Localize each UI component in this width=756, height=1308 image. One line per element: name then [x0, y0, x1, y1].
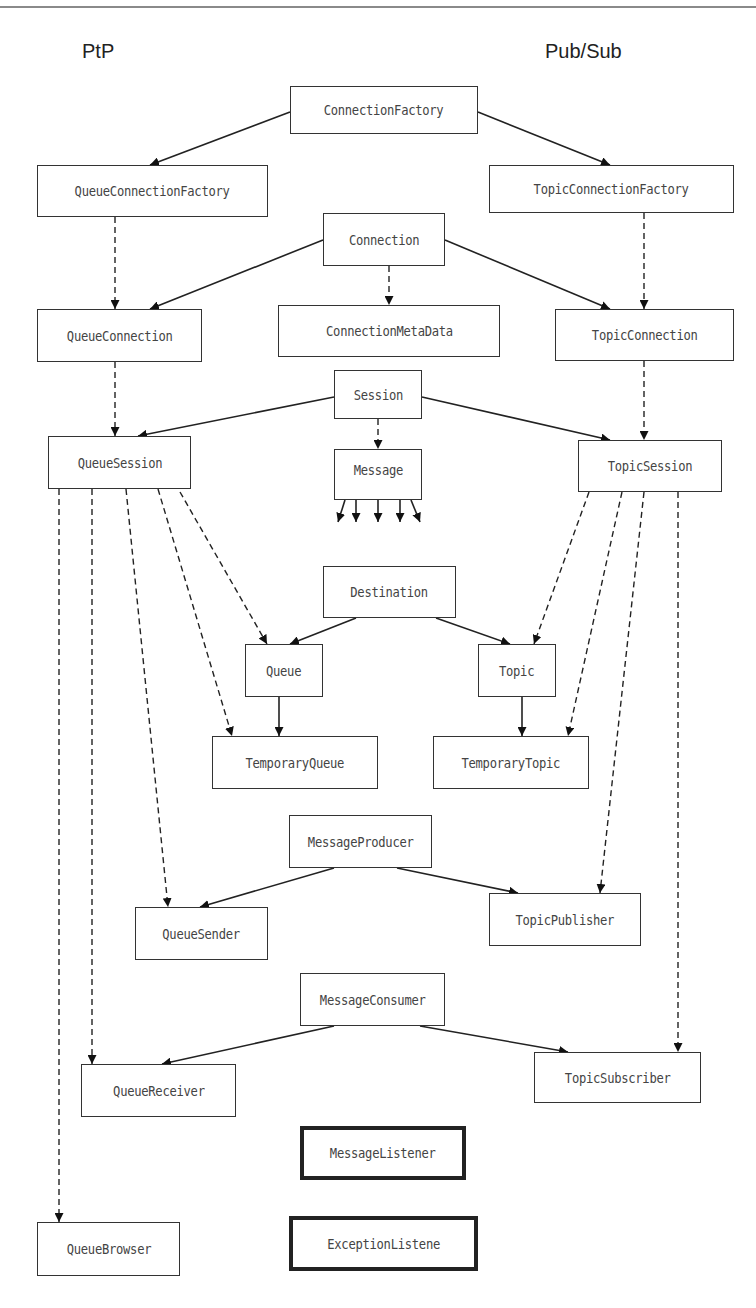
node-message-producer: MessageProducer	[289, 815, 432, 868]
edge-sess-qsess	[138, 397, 334, 436]
node-queue-browser: QueueBrowser	[37, 1222, 180, 1276]
node-topic-session: TopicSession	[578, 440, 722, 492]
node-exception-listener: ExceptionListene	[289, 1216, 478, 1271]
edge-qsess-queue	[180, 492, 267, 644]
node-connection-meta-data: ConnectionMetaData	[278, 305, 500, 357]
edge-mp-qs	[200, 868, 334, 907]
node-queue-receiver: QueueReceiver	[81, 1064, 236, 1117]
node-session: Session	[334, 370, 422, 419]
edge-dest-topic	[436, 618, 510, 644]
node-topic-connection: TopicConnection	[555, 309, 734, 361]
edge-tsess-tp	[600, 492, 644, 893]
node-message-consumer: MessageConsumer	[300, 973, 445, 1026]
edge-cf-qcf	[150, 112, 290, 165]
node-topic-connection-factory: TopicConnectionFactory	[489, 165, 734, 213]
edge-tsess-tt	[568, 492, 622, 736]
node-temporary-queue: TemporaryQueue	[212, 736, 378, 789]
node-topic: Topic	[478, 644, 556, 697]
node-queue: Queue	[245, 644, 323, 697]
edge-mc-ts	[420, 1026, 568, 1052]
edge-tsess-topic	[534, 492, 589, 644]
edge-qsess-sender	[126, 489, 168, 907]
node-queue-connection: QueueConnection	[37, 309, 202, 362]
node-topic-publisher: TopicPublisher	[489, 893, 641, 946]
node-queue-connection-factory: QueueConnectionFactory	[37, 165, 268, 217]
edge-sess-tsess	[422, 397, 610, 440]
node-connection: Connection	[323, 213, 445, 266]
edge-mp-tp	[397, 868, 518, 893]
node-connection-factory: ConnectionFactory	[290, 86, 478, 134]
node-message-listener: MessageListener	[300, 1126, 466, 1180]
edge-dest-queue	[290, 618, 356, 644]
edge-cf-tcf	[478, 112, 610, 165]
node-topic-subscriber: TopicSubscriber	[534, 1052, 701, 1103]
node-queue-sender: QueueSender	[135, 907, 268, 960]
node-destination: Destination	[323, 566, 456, 618]
edge-mc-qr	[162, 1026, 334, 1064]
edge-conn-qconn	[150, 240, 323, 309]
node-message: Message	[334, 449, 422, 500]
node-temporary-topic: TemporaryTopic	[433, 736, 589, 789]
node-queue-session: QueueSession	[48, 436, 191, 489]
edge-qsess-tq	[158, 489, 232, 736]
edge-conn-tconn	[445, 240, 610, 309]
